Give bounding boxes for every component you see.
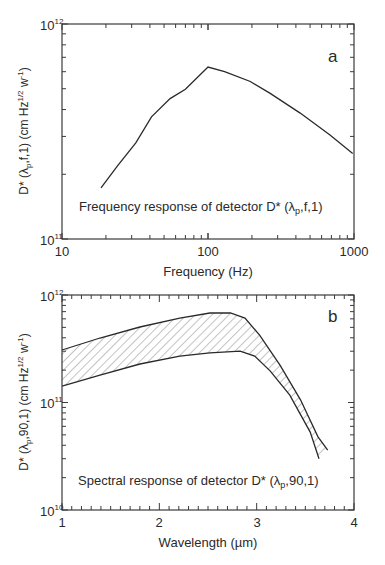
x-axis-label-b: Wavelength (µm) xyxy=(159,535,258,550)
ytick-label-b-1e11: 1011 xyxy=(40,395,63,411)
ytick-label-a-1e12: 1012 xyxy=(40,17,64,33)
spectral-response-band xyxy=(62,313,328,459)
figure: a Frequency response of detector D* (λp,… xyxy=(0,0,385,565)
chart-panel-b: b Spectral response of detector D* (λp,9… xyxy=(16,288,358,550)
xtick-label-b-4: 4 xyxy=(350,515,357,530)
panel-label-b: b xyxy=(328,307,337,326)
panel-label-a: a xyxy=(328,47,338,66)
xtick-label-a-100: 100 xyxy=(197,244,219,259)
xtick-label-b-1: 1 xyxy=(58,515,65,530)
y-axis-label-b: D* (λp,90,1) (cm Hz1/2 w-1) xyxy=(16,333,33,470)
annotation-b: Spectral response of detector D* (λp,90,… xyxy=(78,473,319,490)
xtick-label-b-2: 2 xyxy=(155,515,162,530)
ytick-label-b-1e12: 1012 xyxy=(40,288,64,304)
annotation-a: Frequency response of detector D* (λp,f,… xyxy=(79,199,322,216)
xtick-label-a-10: 10 xyxy=(55,244,69,259)
xtick-label-a-1000: 1000 xyxy=(340,244,369,259)
xtick-label-b-3: 3 xyxy=(253,515,260,530)
x-axis-label-a: Frequency (Hz) xyxy=(163,264,253,279)
frequency-response-curve xyxy=(101,67,353,188)
y-axis-label-a: D* (λp,f,1) (cm Hz1/2 w-1) xyxy=(16,67,33,194)
chart-panel-a: a Frequency response of detector D* (λp,… xyxy=(16,17,368,279)
